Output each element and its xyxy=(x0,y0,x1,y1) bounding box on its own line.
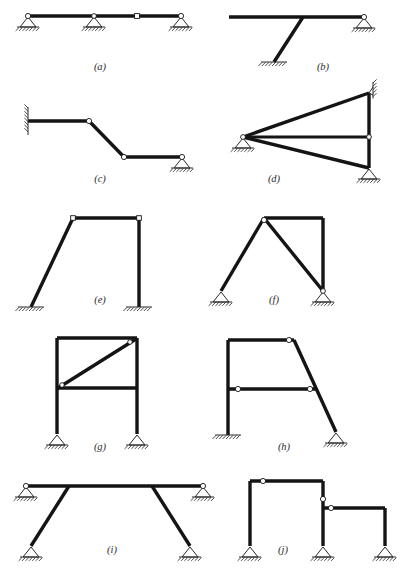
pin-hatch xyxy=(377,180,380,183)
pin-hatch xyxy=(29,558,32,561)
pin-hatch xyxy=(383,558,386,561)
fixed-hatch xyxy=(29,307,33,311)
pin-hatch xyxy=(355,29,358,32)
pin-hatch xyxy=(328,303,331,306)
pin-triangle xyxy=(23,547,39,557)
wall-hatch xyxy=(24,121,28,125)
hinge-brace-upper-hinge xyxy=(128,340,133,345)
hinge-lower-beam-hinge xyxy=(328,505,333,510)
pin-hatch xyxy=(175,28,178,31)
pin-hatch xyxy=(317,558,320,561)
pin-triangle xyxy=(328,433,344,443)
hinge-beam-left-hinge xyxy=(23,483,28,488)
hinge-left-end-hinge xyxy=(25,13,30,18)
pin-hatch xyxy=(36,558,39,561)
pin-hatch xyxy=(365,29,368,32)
pin-hatch xyxy=(369,29,372,32)
fixed-hatch xyxy=(147,307,151,311)
wall-hatch xyxy=(24,128,28,132)
pin-hatch xyxy=(357,180,360,183)
support-fixed-symbol xyxy=(123,307,152,311)
figure-d xyxy=(231,79,381,182)
fixed-hatch xyxy=(36,307,40,311)
pin-hatch xyxy=(138,446,141,449)
fixed-hatch xyxy=(26,307,30,311)
support-pin-symbol xyxy=(82,17,106,31)
wall-hatch xyxy=(373,83,377,87)
caption-j: (j) xyxy=(278,544,288,556)
member-diagonal-brace xyxy=(58,339,136,388)
pin-hatch xyxy=(362,29,365,32)
pin-hatch xyxy=(238,558,241,561)
pin-hatch xyxy=(99,28,102,31)
caption-g: (g) xyxy=(94,441,107,453)
support-wall-symbol xyxy=(24,104,28,135)
pin-hatch xyxy=(22,558,25,561)
fixed-hatch xyxy=(226,435,230,439)
pin-hatch xyxy=(169,28,172,31)
pin-hatch xyxy=(142,446,145,449)
fixed-hatch xyxy=(272,62,276,66)
pin-hatch xyxy=(367,180,370,183)
support-pin-symbol xyxy=(238,547,262,561)
fixed-hatch xyxy=(19,307,23,311)
pin-hatch xyxy=(176,169,179,172)
fixed-hatch xyxy=(144,307,148,311)
figure-a xyxy=(16,13,193,31)
wall-hatch xyxy=(373,79,377,83)
pin-hatch xyxy=(25,558,28,561)
wall-link-a xyxy=(369,87,373,93)
pin-hatch xyxy=(324,444,327,447)
pin-hatch xyxy=(212,303,215,306)
fixed-hatch xyxy=(140,307,144,311)
pin-hatch xyxy=(379,558,382,561)
hinge-top-right-hinge xyxy=(286,337,291,342)
hinge-right-end-hinge xyxy=(178,13,183,18)
pin-hatch xyxy=(19,558,22,561)
pin-hatch xyxy=(92,28,95,31)
fixed-hatch xyxy=(275,62,279,66)
pin-hatch xyxy=(373,558,376,561)
pin-hatch xyxy=(173,169,176,172)
pin-hatch xyxy=(135,446,138,449)
pin-hatch xyxy=(237,149,240,152)
fixed-hatch xyxy=(262,62,266,66)
pin-hatch xyxy=(125,446,128,449)
wall-hatch xyxy=(373,86,377,90)
pin-hatch xyxy=(34,498,37,501)
member-left-leg xyxy=(221,218,264,291)
figures-layer xyxy=(14,13,397,561)
pin-hatch xyxy=(311,303,314,306)
fixed-hatch xyxy=(269,62,273,66)
pin-hatch xyxy=(194,498,197,501)
pin-hatch xyxy=(29,28,32,31)
hinge-upper-hinge xyxy=(86,118,91,123)
pin-hatch xyxy=(45,446,48,449)
fixed-hatch xyxy=(127,307,131,311)
pin-hatch xyxy=(55,446,58,449)
support-pin-symbol xyxy=(311,292,335,306)
hinge-right-end-hinge xyxy=(179,154,184,159)
pin-hatch xyxy=(170,169,173,172)
caption-f: (f) xyxy=(269,294,279,306)
figure-h xyxy=(212,337,347,447)
pin-triangle xyxy=(49,435,65,445)
pin-hatch xyxy=(19,28,22,31)
hinge-brace-lower-hinge xyxy=(60,383,65,388)
figure-f xyxy=(209,217,335,306)
pin-hatch xyxy=(211,498,214,501)
hinge-middle-column-hinge xyxy=(320,496,325,501)
pin-hatch xyxy=(222,303,225,306)
pin-hatch xyxy=(321,558,324,561)
pin-triangle xyxy=(377,547,393,557)
pin-hatch xyxy=(352,29,355,32)
pin-hatch xyxy=(195,558,198,561)
fixed-hatch xyxy=(279,62,283,66)
member-right-inclined-leg xyxy=(152,486,190,546)
pin-hatch xyxy=(226,303,229,306)
support-pin-symbol xyxy=(357,169,381,183)
fixed-hatch xyxy=(229,435,233,439)
support-pin-symbol xyxy=(311,547,335,561)
pin-hatch xyxy=(26,28,29,31)
hinge-mid-right-hinge xyxy=(307,386,312,391)
